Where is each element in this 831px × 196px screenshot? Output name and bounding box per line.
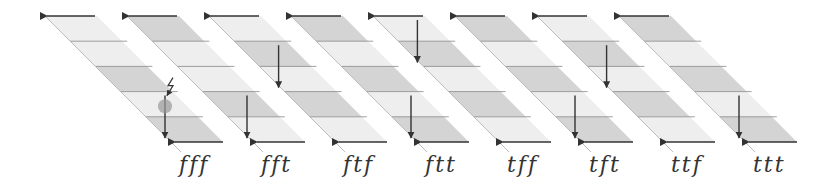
band-dark	[127, 16, 204, 41]
band-dark	[398, 41, 475, 66]
panel-label-fft: fft	[261, 152, 292, 177]
band-light	[45, 16, 122, 41]
panel-label-ttt: ttt	[753, 152, 786, 177]
panel-label-ttf: ttf	[671, 152, 703, 177]
band-dark	[619, 16, 696, 41]
band-light	[228, 117, 305, 142]
diagram-canvas	[0, 0, 831, 196]
panel-label-ftf: ftf	[343, 152, 374, 177]
band-light	[310, 117, 387, 142]
band-dark	[203, 92, 280, 117]
band-dark	[95, 66, 172, 91]
band-light	[259, 66, 336, 91]
band-dark	[455, 16, 532, 41]
band-light	[531, 92, 608, 117]
band-light	[423, 66, 500, 91]
band-light	[587, 66, 664, 91]
band-light	[209, 16, 286, 41]
band-dark	[449, 92, 526, 117]
band-light	[474, 117, 551, 142]
band-dark	[720, 117, 797, 142]
panel-label-fff: fff	[179, 152, 209, 177]
band-light	[638, 117, 715, 142]
band-light	[480, 41, 557, 66]
band-dark	[505, 66, 582, 91]
band-dark	[146, 117, 223, 142]
band-dark	[562, 41, 639, 66]
band-dark	[613, 92, 690, 117]
band-light	[70, 41, 147, 66]
band-light	[177, 66, 254, 91]
band-dark	[234, 41, 311, 66]
band-light	[644, 41, 721, 66]
band-light	[373, 16, 450, 41]
band-light	[537, 16, 614, 41]
band-dark	[392, 117, 469, 142]
panel-label-tff: tff	[507, 152, 538, 177]
band-dark	[341, 66, 418, 91]
fault-marker-circle	[158, 99, 172, 113]
panel-label-ftt: ftt	[425, 152, 457, 177]
band-light	[152, 41, 229, 66]
band-light	[695, 92, 772, 117]
band-dark	[556, 117, 633, 142]
band-dark	[669, 66, 746, 91]
band-dark	[285, 92, 362, 117]
band-light	[367, 92, 444, 117]
band-light	[316, 41, 393, 66]
band-dark	[291, 16, 368, 41]
panel-label-tft: tft	[589, 152, 621, 177]
